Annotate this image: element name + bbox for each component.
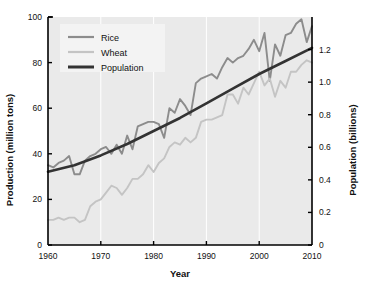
y2-tick-label: 0.4 bbox=[319, 175, 331, 185]
y2-tick-label: 0.6 bbox=[319, 142, 331, 152]
chart-figure: 02040608010000.20.40.60.81.01.2196019701… bbox=[0, 0, 367, 288]
x-tick-label: 1990 bbox=[197, 251, 216, 261]
y-tick-label: 20 bbox=[33, 194, 43, 204]
y-tick-label: 40 bbox=[33, 149, 43, 159]
y2-tick-label: 0.8 bbox=[319, 110, 331, 120]
production-population-line-chart: 02040608010000.20.40.60.81.01.2196019701… bbox=[0, 0, 367, 288]
y2-axis-title: Population (billions) bbox=[347, 104, 358, 195]
legend-label-wheat: Wheat bbox=[101, 48, 128, 58]
y-tick-label: 100 bbox=[28, 12, 42, 22]
y-tick-label: 60 bbox=[33, 103, 43, 113]
x-tick-label: 1980 bbox=[144, 251, 163, 261]
y2-tick-label: 0 bbox=[319, 240, 324, 250]
x-tick-label: 2010 bbox=[303, 251, 322, 261]
y-tick-label: 80 bbox=[33, 58, 43, 68]
y2-tick-label: 0.2 bbox=[319, 207, 331, 217]
x-tick-label: 1970 bbox=[91, 251, 110, 261]
y-axis-title: Production (million tons) bbox=[4, 94, 15, 206]
legend-label-rice: Rice bbox=[101, 33, 119, 43]
y2-tick-label: 1.2 bbox=[319, 45, 331, 55]
y-tick-label: 0 bbox=[37, 240, 42, 250]
x-axis-title: Year bbox=[170, 268, 190, 279]
chart-legend: RiceWheatPopulation bbox=[60, 24, 165, 73]
y2-tick-label: 1.0 bbox=[319, 77, 331, 87]
legend-label-population: Population bbox=[101, 63, 144, 73]
x-tick-label: 2000 bbox=[250, 251, 269, 261]
x-tick-label: 1960 bbox=[39, 251, 58, 261]
